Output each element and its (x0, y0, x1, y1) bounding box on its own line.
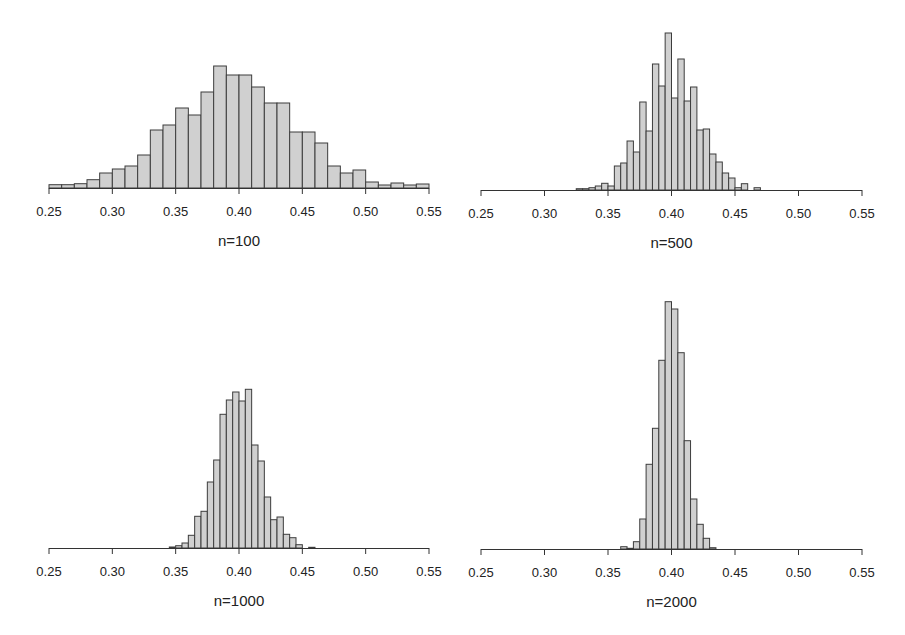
histogram-bar (640, 519, 646, 549)
histogram-bar (621, 163, 627, 190)
histogram-bar (614, 166, 620, 190)
histogram-bar (264, 497, 270, 548)
histogram-bar (652, 64, 658, 190)
histogram-bar (302, 132, 315, 188)
panel-n100: 0.250.300.350.400.450.500.55n=100 (36, 66, 441, 249)
x-tick-label: 0.35 (595, 206, 620, 221)
histogram-bar (703, 538, 709, 549)
histogram-bar (691, 87, 697, 190)
x-tick-label: 0.40 (659, 565, 684, 580)
histogram-bars (169, 389, 315, 548)
histogram-bar (684, 441, 690, 549)
histogram-bar (182, 543, 188, 548)
histogram-bar (239, 401, 245, 548)
histogram-bar (697, 524, 703, 549)
x-tick-label: 0.40 (226, 204, 251, 219)
x-tick-label: 0.45 (722, 206, 747, 221)
histogram-bar (710, 154, 716, 190)
histogram-bar (220, 414, 226, 548)
histogram-bar (646, 464, 652, 549)
histogram-bar (290, 132, 303, 188)
histogram-bar (710, 548, 716, 549)
histogram-bar (176, 546, 182, 548)
x-tick-label: 0.35 (163, 204, 188, 219)
histogram-bar (315, 143, 328, 188)
histogram-bar (296, 545, 302, 548)
histogram-bar (226, 400, 232, 548)
x-axis: 0.250.300.350.400.450.500.55 (468, 549, 874, 580)
x-tick-label: 0.35 (595, 565, 620, 580)
x-axis-caption: n=500 (650, 234, 692, 251)
histogram-bar (416, 184, 429, 188)
x-tick-label: 0.45 (722, 565, 747, 580)
panel-n1000: 0.250.300.350.400.450.500.55n=1000 (36, 389, 441, 609)
x-tick-label: 0.30 (532, 206, 557, 221)
histogram-bar (239, 75, 252, 188)
histogram-bar (576, 189, 582, 190)
histogram-bar (150, 130, 163, 188)
x-axis-caption: n=100 (218, 232, 260, 249)
histogram-bar (201, 511, 207, 548)
histogram-bar (100, 173, 113, 188)
x-axis: 0.250.300.350.400.450.500.55 (468, 190, 874, 221)
panel-n500: 0.250.300.350.400.450.500.55n=500 (468, 33, 874, 251)
histogram-bar (391, 183, 404, 188)
x-axis-caption: n=2000 (646, 593, 696, 610)
histogram-bar (328, 166, 341, 188)
histogram-bar (741, 184, 747, 190)
histogram-bar (684, 101, 690, 190)
histogram-bar (665, 302, 671, 549)
histogram-bar (163, 125, 176, 188)
histogram-bar (640, 102, 646, 190)
histogram-bar (214, 66, 227, 188)
histogram-bar (697, 130, 703, 190)
x-tick-label: 0.30 (532, 565, 557, 580)
x-tick-label: 0.45 (290, 564, 315, 579)
histogram-bar (195, 516, 201, 548)
histogram-bar (652, 428, 658, 549)
histogram-bar (735, 188, 741, 190)
panel-n2000: 0.250.300.350.400.450.500.55n=2000 (468, 302, 874, 610)
histogram-bar (378, 185, 391, 188)
histogram-bar (87, 180, 100, 188)
x-tick-label: 0.50 (353, 564, 378, 579)
histogram-bar (583, 189, 589, 190)
histogram-bar (290, 538, 296, 548)
histogram-bar (691, 499, 697, 549)
histogram-bar (366, 182, 379, 188)
histogram-bar (621, 547, 627, 549)
x-tick-label: 0.35 (163, 564, 188, 579)
histogram-bar (595, 186, 601, 190)
histogram-bar (252, 87, 265, 188)
histogram-bar (277, 517, 283, 548)
histogram-bar (226, 75, 239, 188)
x-tick-label: 0.25 (36, 204, 61, 219)
x-tick-label: 0.25 (468, 565, 493, 580)
x-tick-label: 0.55 (849, 206, 874, 221)
histogram-bar (283, 534, 289, 548)
x-tick-label: 0.50 (786, 206, 811, 221)
histogram-bar (404, 185, 417, 188)
histogram-bar (703, 129, 709, 190)
x-tick-label: 0.25 (36, 564, 61, 579)
histogram-bar (62, 185, 75, 188)
histogram-bar (188, 535, 194, 548)
histogram-bar (252, 445, 258, 548)
histogram-bar (353, 170, 366, 188)
histogram-bar (608, 186, 614, 190)
histogram-figure: 0.250.300.350.400.450.500.55n=100 0.250.… (0, 0, 905, 635)
x-tick-label: 0.25 (468, 206, 493, 221)
histogram-bar (277, 103, 290, 188)
histogram-bar (672, 98, 678, 190)
histogram-bar (729, 178, 735, 190)
x-tick-label: 0.40 (226, 564, 251, 579)
histogram-bar (659, 86, 665, 190)
x-tick-label: 0.45 (290, 204, 315, 219)
x-axis-caption: n=1000 (214, 592, 264, 609)
histogram-bar (233, 392, 239, 548)
histogram-bar (340, 173, 353, 188)
histogram-bar (646, 131, 652, 190)
histogram-bar (264, 103, 277, 188)
histogram-bar (138, 155, 151, 188)
histogram-bar (112, 169, 125, 188)
